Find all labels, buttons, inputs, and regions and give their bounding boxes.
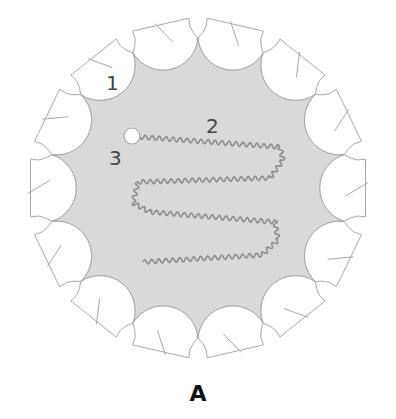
panel-label: A [0,381,396,406]
label-2: 2 [206,114,219,138]
label-1: 1 [106,71,119,95]
diagram-figure: 1 2 3 [0,0,396,419]
start-circle-marker [124,128,140,144]
label-3: 3 [109,146,122,170]
